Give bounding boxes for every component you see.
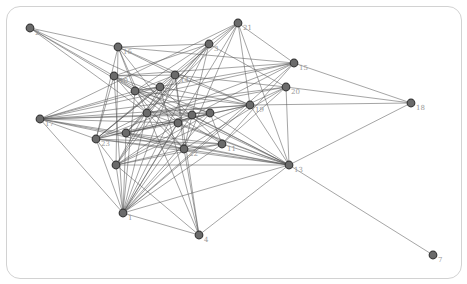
- edge: [30, 28, 160, 87]
- node-label: 17: [45, 120, 54, 128]
- graph-node[interactable]: [36, 115, 44, 123]
- edge: [135, 91, 289, 165]
- node-label: 23: [101, 140, 110, 148]
- edge: [286, 87, 411, 103]
- node-label: 15: [299, 64, 308, 72]
- graph-node[interactable]: [218, 140, 226, 148]
- edge: [123, 213, 199, 235]
- edge: [123, 149, 184, 213]
- graph-node[interactable]: [131, 87, 139, 95]
- node-label: 11: [227, 145, 236, 153]
- graph-node[interactable]: [119, 209, 127, 217]
- node-label: 18: [416, 104, 425, 112]
- graph-node[interactable]: [110, 72, 118, 80]
- graph-node[interactable]: [188, 111, 196, 119]
- graph-node[interactable]: [171, 71, 179, 79]
- node-label: 21: [243, 24, 252, 32]
- node-label: 14: [180, 76, 189, 84]
- edge: [116, 165, 199, 235]
- node-label: 1: [128, 214, 132, 222]
- edge: [286, 87, 289, 165]
- graph-node[interactable]: [282, 83, 290, 91]
- edge: [289, 103, 411, 165]
- edge: [294, 63, 411, 103]
- edge: [123, 144, 222, 213]
- graph-node[interactable]: [122, 129, 130, 137]
- graph-node[interactable]: [112, 161, 120, 169]
- edge: [238, 23, 289, 165]
- edge: [118, 44, 209, 47]
- edge: [222, 63, 294, 144]
- edge: [40, 91, 135, 119]
- node-label: 20: [291, 88, 300, 96]
- graph-node[interactable]: [143, 109, 151, 117]
- graph-node[interactable]: [114, 43, 122, 51]
- edge: [96, 47, 118, 139]
- network-graph: 2163211520101419181723221113147: [0, 0, 467, 284]
- graph-node[interactable]: [429, 251, 437, 259]
- node-label: 19: [255, 106, 264, 114]
- node-label: 13: [294, 166, 303, 174]
- graph-node[interactable]: [290, 59, 298, 67]
- edge: [250, 103, 411, 105]
- graph-node[interactable]: [92, 135, 100, 143]
- graph-node[interactable]: [180, 145, 188, 153]
- node-label: 16: [123, 48, 132, 56]
- graph-node[interactable]: [246, 101, 254, 109]
- node-label: 22: [189, 150, 198, 158]
- graph-node[interactable]: [234, 19, 242, 27]
- nodes-layer: 2163211520101419181723221113147: [26, 19, 442, 264]
- edge: [289, 165, 433, 255]
- node-label: 7: [438, 256, 442, 264]
- node-label: 10: [119, 77, 128, 85]
- graph-node[interactable]: [195, 231, 203, 239]
- node-label: 4: [204, 236, 209, 244]
- edge: [199, 165, 289, 235]
- graph-node[interactable]: [206, 109, 214, 117]
- edge: [40, 115, 192, 119]
- graph-node[interactable]: [407, 99, 415, 107]
- graph-node[interactable]: [205, 40, 213, 48]
- node-label: 2: [35, 29, 39, 37]
- edge: [210, 113, 222, 144]
- edges-layer: [30, 23, 433, 255]
- graph-node[interactable]: [26, 24, 34, 32]
- graph-node[interactable]: [285, 161, 293, 169]
- graph-node[interactable]: [174, 119, 182, 127]
- edge: [178, 123, 289, 165]
- graph-node[interactable]: [156, 83, 164, 91]
- node-label: 3: [214, 45, 218, 53]
